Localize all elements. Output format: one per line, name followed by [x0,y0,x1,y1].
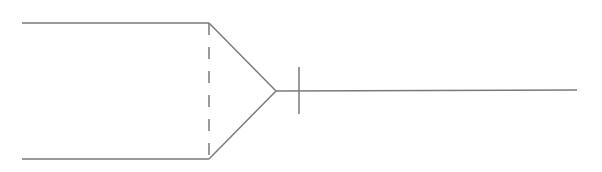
output-line [276,90,577,91]
upper-taper-line [209,23,276,91]
lower-taper-line [209,91,276,159]
funnel-diagram [0,0,602,172]
